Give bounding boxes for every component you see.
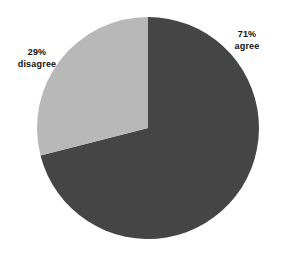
pie-label-disagree-value: 29% [4,46,70,58]
pie-label-disagree-name: disagree [4,58,70,70]
pie-chart: 71% agree 29% disagree [0,0,281,257]
pie-label-agree: 71% agree [218,28,276,52]
pie-label-agree-value: 71% [218,28,276,40]
pie-label-disagree: 29% disagree [4,46,70,70]
pie-label-agree-name: agree [218,40,276,52]
